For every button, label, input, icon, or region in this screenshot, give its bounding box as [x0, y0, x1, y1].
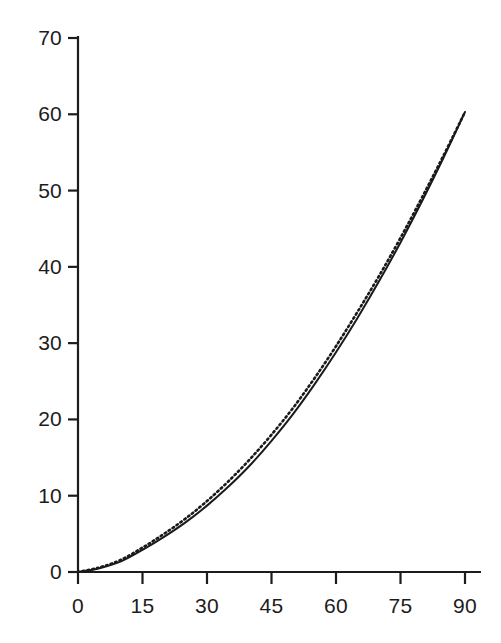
y-tick-label: 50 — [2, 180, 62, 201]
x-tick-label: 75 — [371, 595, 431, 616]
y-tick-label: 30 — [2, 332, 62, 353]
x-tick-label: 90 — [435, 595, 495, 616]
y-tick-label: 40 — [2, 256, 62, 277]
y-axis-ticks — [68, 38, 78, 572]
y-tick-label: 20 — [2, 408, 62, 429]
y-tick-label: 60 — [2, 103, 62, 124]
y-tick-label: 10 — [2, 485, 62, 506]
y-tick-label: 70 — [2, 27, 62, 48]
x-tick-label: 60 — [306, 595, 366, 616]
x-tick-label: 30 — [177, 595, 237, 616]
x-tick-label: 45 — [242, 595, 302, 616]
y-tick-label: 0 — [2, 561, 62, 582]
data-series-layer — [78, 112, 465, 572]
x-axis-ticks — [78, 572, 465, 584]
plot-area — [0, 0, 501, 643]
chart-figure: 010203040506070 0153045607590 — [0, 0, 501, 643]
series-line-dotted-curve — [78, 112, 465, 572]
x-tick-label: 0 — [48, 595, 108, 616]
x-tick-label: 15 — [113, 595, 173, 616]
series-line-solid-curve — [78, 112, 465, 572]
